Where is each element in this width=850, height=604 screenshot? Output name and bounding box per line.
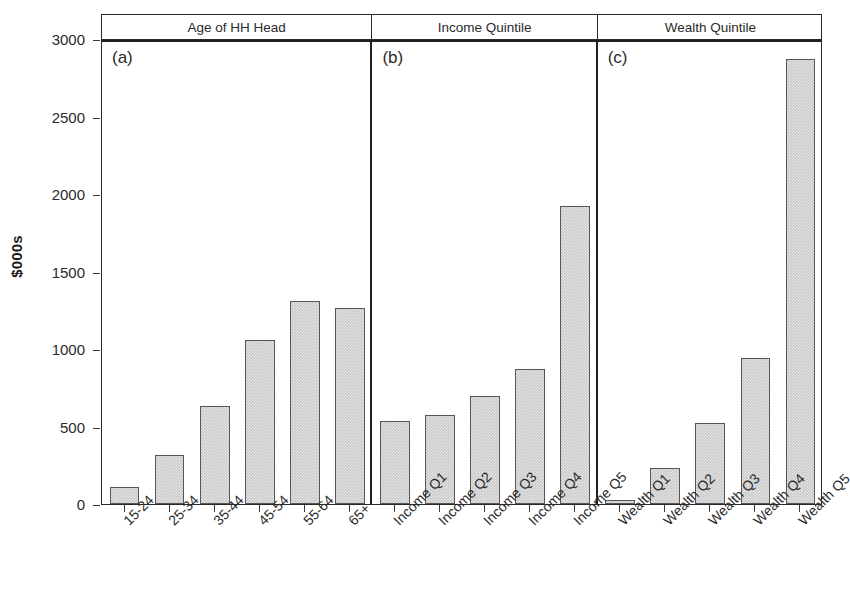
y-tick-label: 500 <box>33 419 85 436</box>
strip-label-text: Income Quintile <box>438 20 532 35</box>
y-tick-mark <box>93 40 100 41</box>
y-tick-label: 3000 <box>33 31 85 48</box>
panel-tag-2: (b) <box>382 48 403 68</box>
y-tick-mark <box>93 505 100 506</box>
bar <box>380 421 410 504</box>
y-tick-label: 2000 <box>33 186 85 203</box>
panel-b: (b) <box>372 42 597 504</box>
bar <box>560 206 590 504</box>
panel-row: (a)(b)(c) <box>101 40 822 505</box>
y-tick-label: 1500 <box>33 264 85 281</box>
panel-strip-label-3: Wealth Quintile <box>598 15 823 39</box>
y-tick-label: 1000 <box>33 341 85 358</box>
bar <box>290 301 320 504</box>
bar <box>155 455 185 504</box>
bar <box>786 59 816 504</box>
bar <box>335 308 365 504</box>
panel-strip-label-2: Income Quintile <box>372 15 597 39</box>
bar <box>200 406 230 504</box>
bars-layer <box>598 42 823 504</box>
panel-strip-header-row: Age of HH HeadIncome QuintileWealth Quin… <box>101 14 822 40</box>
bar <box>245 340 275 504</box>
y-tick-mark <box>93 350 100 351</box>
y-tick-label: 2500 <box>33 109 85 126</box>
strip-label-text: Wealth Quintile <box>665 20 756 35</box>
bars-layer <box>102 42 370 504</box>
y-tick-label: 0 <box>33 496 85 513</box>
panel-c: (c) <box>598 42 823 504</box>
y-axis-title: $000s <box>8 197 25 317</box>
strip-label-text: Age of HH Head <box>188 20 286 35</box>
panel-tag-1: (a) <box>112 48 133 68</box>
y-tick-mark <box>93 428 100 429</box>
panel-a: (a) <box>102 42 372 504</box>
y-tick-mark <box>93 273 100 274</box>
panel-tag-3: (c) <box>608 48 628 68</box>
y-tick-mark <box>93 195 100 196</box>
bars-layer <box>372 42 595 504</box>
y-tick-mark <box>93 118 100 119</box>
panel-strip-label-1: Age of HH Head <box>102 15 372 39</box>
chart-figure: $000s 050010001500200025003000 Age of HH… <box>0 0 850 604</box>
